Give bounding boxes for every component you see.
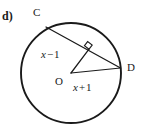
point-label-d: D <box>127 62 135 73</box>
point-label-o: O <box>55 76 63 87</box>
perp-operator: − <box>46 48 54 60</box>
radius-constant: 1 <box>86 81 92 93</box>
point-label-c: C <box>33 7 40 18</box>
perp-constant: 1 <box>54 48 60 60</box>
radius-operator: + <box>78 81 86 93</box>
geometry-figure: d) C O D x−1 x+1 <box>0 0 143 139</box>
right-angle-marker <box>84 42 92 50</box>
perpendicular-segment <box>71 49 89 73</box>
circle-diagram-canvas <box>0 0 143 139</box>
radius-od <box>71 68 121 73</box>
segment-label-radius: x+1 <box>73 82 92 93</box>
segment-label-perpendicular: x−1 <box>41 49 60 60</box>
part-label: d) <box>2 10 13 22</box>
